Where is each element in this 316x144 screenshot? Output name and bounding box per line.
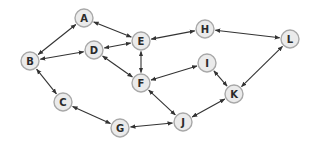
node-e: E <box>132 32 150 50</box>
node-b: B <box>21 52 39 70</box>
edge-j-k <box>192 99 225 117</box>
node-label: G <box>116 123 124 134</box>
edge-g-j <box>131 123 173 127</box>
node-g: G <box>111 119 129 137</box>
node-label: C <box>59 97 66 108</box>
edge-d-f <box>103 56 133 77</box>
node-f: F <box>132 74 150 92</box>
graph-diagram: ABCDEFGHIJKL <box>0 0 316 144</box>
edge-b-d <box>40 52 83 59</box>
node-h: H <box>196 20 214 38</box>
node-label: B <box>26 56 34 67</box>
edge-e-h <box>151 31 194 39</box>
edge-l-k <box>242 46 283 86</box>
node-a: A <box>75 9 93 27</box>
node-label: F <box>138 78 145 89</box>
edge-f-j <box>149 90 176 115</box>
node-i: I <box>198 54 216 72</box>
node-k: K <box>225 85 243 103</box>
edge-d-e <box>104 43 130 48</box>
edges-layer <box>37 22 283 127</box>
edge-h-l <box>215 30 279 38</box>
node-d: D <box>85 41 103 59</box>
nodes-layer: ABCDEFGHIJKL <box>21 9 299 137</box>
node-label: J <box>180 117 185 128</box>
edge-f-i <box>151 66 197 80</box>
node-c: C <box>54 93 72 111</box>
edge-i-k <box>214 71 227 86</box>
node-l: L <box>281 30 299 48</box>
edge-c-g <box>73 106 111 123</box>
node-label: A <box>80 13 88 24</box>
node-label: L <box>287 34 294 45</box>
node-label: K <box>230 89 239 100</box>
node-label: H <box>201 24 209 35</box>
node-label: D <box>90 45 98 56</box>
node-j: J <box>174 113 192 131</box>
edge-b-c <box>37 69 57 94</box>
node-label: E <box>138 36 145 47</box>
node-label: I <box>205 58 209 69</box>
edge-a-b <box>38 25 76 55</box>
edge-a-e <box>94 22 132 37</box>
